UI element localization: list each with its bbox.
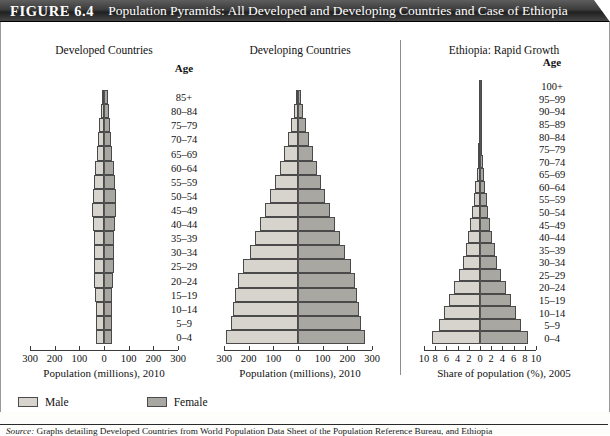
pyramid-bar-male xyxy=(97,146,104,160)
age-group-label: 40–44 xyxy=(171,219,197,230)
pyramid-bar-male xyxy=(432,331,480,344)
age-group-label: 25–29 xyxy=(539,269,565,280)
age-group-label: 15–19 xyxy=(171,289,197,300)
figure-title-banner: FIGURE 6.4 Population Pyramids: All Deve… xyxy=(0,0,610,22)
pyramid-bar-male xyxy=(255,231,298,245)
source-text: Graphs detailing Developed Countries fro… xyxy=(34,426,492,436)
x-axis-tick xyxy=(469,346,470,350)
pyramid-bar-female xyxy=(480,269,501,282)
age-group-label: 5–9 xyxy=(544,320,560,331)
age-column-header: Age xyxy=(543,56,561,68)
x-axis-tick xyxy=(129,346,130,350)
age-group-label: 45–49 xyxy=(539,219,565,230)
pyramid-bar-male xyxy=(94,231,104,245)
age-group-label: 65–69 xyxy=(539,169,565,180)
pyramid-ethiopia: 1086420246810Share of population (%), 20… xyxy=(404,22,604,412)
pyramid-bar-male xyxy=(449,294,480,307)
pyramid-bar-female xyxy=(480,331,528,344)
pyramid-bar-female xyxy=(104,245,114,259)
panel-developing-countries: Developing Countries 3002001000100200300… xyxy=(202,22,398,412)
pyramid-bar-female xyxy=(104,302,112,316)
panel-divider xyxy=(400,40,401,375)
pyramid-bar-female xyxy=(298,273,355,287)
pyramid-bar-female xyxy=(480,193,487,206)
pyramid-center-axis xyxy=(298,90,299,344)
x-axis-tick-label: 6 xyxy=(511,353,516,364)
x-axis-caption: Share of population (%), 2005 xyxy=(404,367,604,379)
x-axis-tick xyxy=(79,346,80,350)
x-axis-tick-label: 8 xyxy=(522,353,527,364)
legend-label-male: Male xyxy=(45,396,69,408)
age-group-label: 45–49 xyxy=(171,204,197,215)
pyramid-bar-female xyxy=(480,281,506,294)
legend-swatch-male xyxy=(18,397,38,407)
pyramid-bar-male xyxy=(454,281,480,294)
pyramid-bar-female xyxy=(104,203,116,217)
pyramid-bar-male xyxy=(94,273,104,287)
pyramid-bar-female xyxy=(104,288,112,302)
legend: Male Female xyxy=(0,392,608,412)
age-group-label: 80–84 xyxy=(539,131,565,142)
pyramid-bar-female xyxy=(298,203,330,217)
pyramid-bar-male xyxy=(291,118,298,132)
pyramid-bar-male xyxy=(231,316,298,330)
x-axis-tick xyxy=(536,346,537,350)
age-group-label: 20–24 xyxy=(539,282,565,293)
pyramid-bar-male xyxy=(226,330,298,344)
pyramid-bar-male xyxy=(468,231,480,244)
pyramid-bar-male xyxy=(284,146,298,160)
age-group-label: 100+ xyxy=(541,81,563,92)
age-group-label: 35–39 xyxy=(539,244,565,255)
pyramid-bar-female xyxy=(298,175,321,189)
age-group-label: 85+ xyxy=(176,92,192,103)
pyramid-bar-female xyxy=(480,243,495,256)
pyramid-bar-male xyxy=(93,189,104,203)
pyramid-bar-male xyxy=(470,218,480,231)
figure-title: Population Pyramids: All Developed and D… xyxy=(108,3,568,19)
pyramid-bar-female xyxy=(104,175,115,189)
pyramid-bar-male xyxy=(235,288,298,302)
pyramid-bar-female xyxy=(480,206,488,219)
age-group-label: 0–4 xyxy=(544,332,560,343)
x-axis-caption: Population (millions), 2010 xyxy=(6,367,202,379)
x-axis-tick xyxy=(153,346,154,350)
pyramid-bar-female xyxy=(104,330,112,344)
pyramid-bar-male xyxy=(270,189,298,203)
x-axis-tick-label: 4 xyxy=(500,353,505,364)
age-group-label: 90–94 xyxy=(539,106,565,117)
pyramid-developed: 3002001000100200300Population (millions)… xyxy=(6,22,202,412)
pyramid-bar-male xyxy=(463,256,480,269)
age-group-label: 50–54 xyxy=(171,190,197,201)
pyramid-bar-male xyxy=(94,259,104,273)
x-axis-tick xyxy=(458,346,459,350)
x-axis-tick xyxy=(480,346,481,350)
source-lead: Source: xyxy=(6,426,34,436)
x-axis-tick-label: 300 xyxy=(22,353,38,364)
pyramid-center-axis xyxy=(480,80,481,344)
pyramid-bar-female xyxy=(104,146,112,160)
x-axis-tick-label: 8 xyxy=(433,353,438,364)
x-axis-tick-label: 6 xyxy=(444,353,449,364)
pyramid-bar-male xyxy=(94,175,104,189)
pyramid-bar-female xyxy=(480,319,521,332)
legend-label-female: Female xyxy=(174,396,208,408)
legend-item-female: Female xyxy=(147,396,208,408)
age-group-label: 15–19 xyxy=(539,295,565,306)
x-axis-tick xyxy=(55,346,56,350)
pyramid-bar-female xyxy=(104,259,114,273)
x-axis-tick xyxy=(435,346,436,350)
pyramid-bar-female xyxy=(298,118,306,132)
panel-ethiopia: Ethiopia: Rapid Growth 1086420246810Shar… xyxy=(404,22,604,412)
x-axis-tick xyxy=(104,346,105,350)
x-axis-tick xyxy=(323,346,324,350)
x-axis-tick-label: 100 xyxy=(121,353,137,364)
age-group-label: 75–79 xyxy=(171,120,197,131)
pyramid-bar-male xyxy=(243,259,298,273)
age-group-label: 0–4 xyxy=(176,331,192,342)
pyramid-bar-female xyxy=(298,161,317,175)
pyramid-bar-male xyxy=(95,288,104,302)
x-axis-tick xyxy=(372,346,373,350)
age-group-label: 30–34 xyxy=(171,247,197,258)
x-axis-tick-label: 10 xyxy=(531,353,542,364)
pyramid-bar-male xyxy=(95,161,104,175)
